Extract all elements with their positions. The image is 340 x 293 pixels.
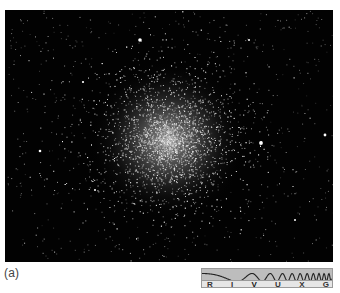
band-label-u: U [275, 281, 281, 287]
star-cluster-photo [5, 10, 333, 262]
band-label-r: R [207, 281, 213, 287]
star-field-image [5, 10, 333, 262]
figure-caption: (a) [4, 266, 19, 280]
spectrum-band-indicator: R I V U X G [201, 268, 333, 288]
band-label-i: I [231, 281, 233, 287]
band-label-g: G [323, 281, 329, 287]
band-label-x: X [299, 281, 304, 287]
wavelength-wave-band [202, 269, 332, 280]
band-labels: R I V U X G [202, 280, 332, 287]
wave-icon [202, 272, 332, 280]
band-label-v: V [252, 281, 257, 287]
